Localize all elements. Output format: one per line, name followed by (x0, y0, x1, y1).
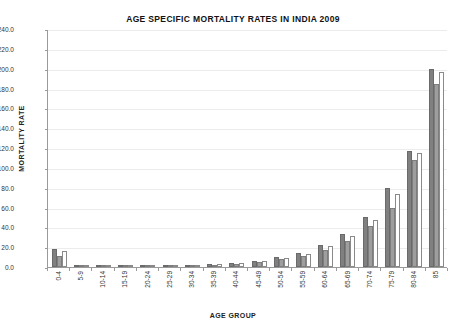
chart-title: AGE SPECIFIC MORTALITY RATES IN INDIA 20… (0, 14, 466, 24)
x-tick-mark (225, 268, 226, 271)
bar-combined[interactable] (284, 258, 289, 267)
bar-combined[interactable] (395, 194, 400, 267)
x-tick-label: 65-69 (344, 271, 351, 288)
x-tick-mark (380, 268, 381, 271)
y-tick-label: 20.0 (0, 244, 14, 251)
x-tick-label: 20-24 (144, 271, 151, 288)
bar-group (137, 30, 159, 267)
bar-group (270, 30, 292, 267)
x-tick-label: 5-9 (77, 271, 84, 280)
bar-combined[interactable] (62, 251, 67, 267)
bar-group (359, 30, 381, 267)
bar-combined[interactable] (106, 265, 111, 267)
bar-group (381, 30, 403, 267)
bar-group (115, 30, 137, 267)
x-axis-title: AGE GROUP (0, 312, 466, 319)
x-tick-label: 40-44 (232, 271, 239, 288)
bar-combined[interactable] (150, 265, 155, 267)
x-tick-label: 10-14 (99, 271, 106, 288)
y-tick-label: 120.0 (0, 145, 14, 152)
x-tick-label: 0-4 (55, 271, 62, 280)
bar-combined[interactable] (417, 153, 422, 267)
x-tick-label: 80-84 (410, 271, 417, 288)
bar-group (292, 30, 314, 267)
y-tick-label: 140.0 (0, 125, 14, 132)
bar-combined[interactable] (306, 254, 311, 267)
x-tick-mark (314, 268, 315, 271)
x-tick-mark (425, 268, 426, 271)
x-tick-label: 55-59 (299, 271, 306, 288)
y-tick-label: 60.0 (0, 205, 14, 212)
x-tick-mark (403, 268, 404, 271)
bar-group (248, 30, 270, 267)
x-tick-mark (447, 268, 448, 271)
bar-combined[interactable] (262, 261, 267, 267)
x-tick-mark (358, 268, 359, 271)
bar-group (70, 30, 92, 267)
bar-combined[interactable] (239, 263, 244, 267)
bar-group (226, 30, 248, 267)
bar-combined[interactable] (328, 246, 333, 267)
x-tick-label: 60-64 (321, 271, 328, 288)
bar-combined[interactable] (217, 264, 222, 267)
bar-group (204, 30, 226, 267)
bar-group (337, 30, 359, 267)
bar-group (159, 30, 181, 267)
y-tick-label: 80.0 (0, 185, 14, 192)
x-tick-label: 70-74 (366, 271, 373, 288)
x-tick-mark (336, 268, 337, 271)
bar-combined[interactable] (373, 220, 378, 267)
bar-group (404, 30, 426, 267)
x-tick-label: 35-39 (210, 271, 217, 288)
x-tick-mark (247, 268, 248, 271)
bars-layer (48, 30, 447, 267)
bar-group (426, 30, 448, 267)
x-tick-mark (180, 268, 181, 271)
x-tick-label: 75-79 (388, 271, 395, 288)
x-tick-label: 50-54 (277, 271, 284, 288)
plot-area (47, 30, 447, 268)
bar-group (315, 30, 337, 267)
x-tick-label: 15-19 (121, 271, 128, 288)
x-tick-label: 45-49 (255, 271, 262, 288)
x-tick-mark (158, 268, 159, 271)
x-tick-mark (114, 268, 115, 271)
x-tick-mark (47, 268, 48, 271)
x-tick-mark (136, 268, 137, 271)
y-axis-title: MORTALITY RATE (18, 84, 25, 194)
chart-container: AGE SPECIFIC MORTALITY RATES IN INDIA 20… (0, 0, 466, 330)
bar-group (181, 30, 203, 267)
x-tick-label: 30-34 (188, 271, 195, 288)
x-tick-label: 85 (432, 271, 439, 278)
y-tick-label: 160.0 (0, 105, 14, 112)
bar-combined[interactable] (128, 265, 133, 267)
bar-combined[interactable] (195, 265, 200, 267)
x-tick-mark (69, 268, 70, 271)
y-tick-label: 200.0 (0, 66, 14, 73)
y-tick-label: 180.0 (0, 86, 14, 93)
y-tick-label: 40.0 (0, 224, 14, 231)
y-tick-label: 220.0 (0, 46, 14, 53)
x-tick-mark (91, 268, 92, 271)
y-tick-label: 240.0 (0, 26, 14, 33)
bar-combined[interactable] (439, 72, 444, 267)
x-tick-mark (269, 268, 270, 271)
bar-group (48, 30, 70, 267)
x-tick-mark (291, 268, 292, 271)
bar-combined[interactable] (350, 236, 355, 267)
y-tick-label: 0.0 (0, 264, 14, 271)
bar-combined[interactable] (173, 265, 178, 267)
bar-group (92, 30, 114, 267)
bar-combined[interactable] (84, 265, 89, 267)
x-tick-label: 25-29 (166, 271, 173, 288)
y-tick-label: 100.0 (0, 165, 14, 172)
x-tick-mark (203, 268, 204, 271)
